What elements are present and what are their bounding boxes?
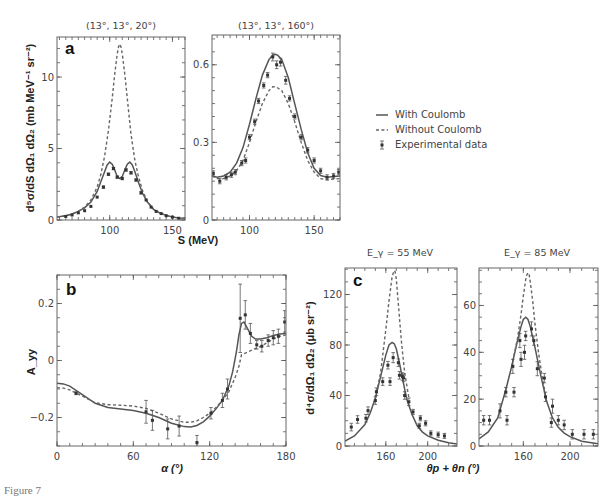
without-coulomb-curve [512, 273, 547, 402]
data-point [140, 191, 143, 194]
plot-a1-area: 1001500510 [41, 37, 185, 236]
y-tick-label: 0 [203, 215, 209, 226]
plot-frame [57, 275, 286, 446]
data-point [240, 162, 243, 165]
data-point [364, 417, 367, 420]
data-point [403, 394, 406, 397]
data-point [397, 361, 400, 364]
y-tick-label: 0.6 [193, 59, 209, 70]
data-point [150, 206, 153, 209]
data-point [177, 217, 180, 220]
data-point [160, 212, 163, 215]
legend-experimental-data: Experimental data [395, 139, 487, 150]
x-axis-label-a: S (MeV) [178, 234, 219, 246]
data-point [392, 356, 395, 359]
data-point [89, 205, 92, 208]
x-tick-label: 100 [240, 225, 259, 236]
y-tick-label: 0 [48, 215, 54, 226]
without-coulomb-curve [57, 44, 185, 218]
figure-caption: Figure 7 [4, 484, 41, 496]
data-point [488, 419, 491, 422]
y-tick-label: 20 [463, 394, 476, 405]
data-point [255, 343, 258, 346]
data-point [557, 419, 560, 422]
data-point [218, 180, 221, 183]
y-tick-label: 0.2 [38, 298, 54, 309]
data-point [356, 418, 359, 421]
data-point [107, 173, 110, 176]
plot-frame [345, 268, 457, 446]
data-point [125, 168, 128, 171]
plot-c1-area: 16020004080120 [323, 268, 457, 462]
with-coulomb-curve [57, 322, 286, 427]
data-point [306, 149, 309, 152]
y-tick-label: 0 [470, 441, 476, 452]
panel-c1: E_γ = 55 MeV 16020004080120 c d⁴σ/dΩ₁ dΩ… [304, 247, 457, 462]
data-point [313, 159, 316, 162]
data-point [130, 171, 133, 174]
panel-c2-title: E_γ = 85 MeV [504, 247, 571, 258]
data-point [499, 409, 502, 412]
without-coulomb-curve [57, 335, 286, 422]
data-point [112, 167, 115, 170]
data-point [77, 211, 80, 214]
data-point [375, 390, 378, 393]
y-axis-label-c: d⁴σ/dΩ₁ dΩ₂ (μb sr⁻²) [304, 301, 316, 415]
panel-a2-title: (13°, 13°, 160°) [238, 20, 314, 31]
data-point [520, 358, 523, 361]
data-point [121, 177, 124, 180]
data-point [260, 345, 263, 348]
data-point [195, 441, 198, 444]
data-point [284, 79, 287, 82]
data-point [271, 55, 274, 58]
data-point [135, 178, 138, 181]
with-coulomb-curve [479, 317, 598, 444]
x-tick-label: 0 [54, 451, 60, 462]
data-point [116, 176, 119, 179]
data-point [398, 374, 401, 377]
data-point [524, 334, 527, 337]
data-point [145, 198, 148, 201]
data-point [151, 419, 154, 422]
data-point [544, 395, 547, 398]
x-tick-label: 60 [127, 451, 140, 462]
data-point [506, 419, 509, 422]
data-point [437, 433, 440, 436]
data-point [443, 434, 446, 437]
data-point [536, 367, 539, 370]
data-point [532, 339, 535, 342]
data-point [266, 74, 269, 77]
y-tick-label: 120 [323, 289, 342, 300]
panel-a1: (13°, 13°, 20°) 1001500510 a [41, 20, 185, 236]
x-axis-label-c: θp + θn (°) [426, 462, 479, 474]
x-tick-label: 100 [100, 225, 119, 236]
data-point [374, 399, 377, 402]
x-tick-label: 160 [376, 451, 395, 462]
panel-label-a: a [65, 39, 75, 58]
data-point [407, 400, 410, 403]
x-tick-label: 200 [418, 451, 437, 462]
data-point [592, 433, 595, 436]
data-point [239, 317, 242, 320]
data-point [332, 175, 335, 178]
data-point [518, 339, 521, 342]
data-point [482, 419, 485, 422]
data-point [277, 335, 280, 338]
data-point [64, 215, 67, 218]
data-point [412, 410, 415, 413]
y-tick-label: 40 [463, 347, 476, 358]
y-tick-label: 40 [329, 390, 342, 401]
legend-with-coulomb: With Coulomb [395, 109, 465, 120]
data-point [96, 196, 99, 199]
x-tick-label: 120 [200, 451, 219, 462]
with-coulomb-curve [212, 54, 340, 177]
data-point [262, 84, 265, 87]
x-axis-label-b: α (°) [161, 462, 183, 474]
data-point [248, 136, 251, 139]
data-point [288, 97, 291, 100]
data-point [326, 176, 329, 179]
data-point [75, 392, 78, 395]
y-axis-label-a: d⁵σ/dS dΩ₁ dΩ₂ (mb MeV⁻¹ sr⁻²) [24, 43, 36, 212]
plot-frame [57, 37, 185, 220]
data-point [563, 423, 566, 426]
